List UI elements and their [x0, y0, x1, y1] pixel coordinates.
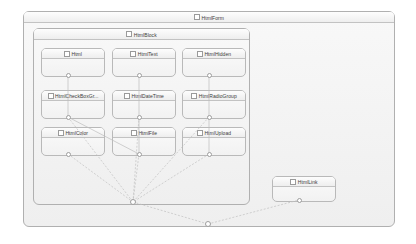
port-htmlupload[interactable]: [207, 152, 212, 157]
node-label: HtmlLink: [298, 179, 318, 185]
class-checkbox-icon: [124, 93, 130, 99]
class-checkbox-icon: [197, 130, 203, 136]
port-htmlradiogroup[interactable]: [207, 115, 212, 120]
class-node-htmlupload[interactable]: HtmlUpload: [182, 127, 246, 156]
node-header: HtmlUpload: [183, 128, 245, 138]
node-attribute-compartment: [183, 138, 245, 155]
node-attribute-compartment: [113, 59, 175, 76]
port-htmlhidden[interactable]: [207, 73, 212, 78]
junction-hub-block[interactable]: [130, 199, 136, 205]
diagram-canvas: HtmlFormHtmlBlockHtmlHtmlTextHtmlHiddenH…: [0, 0, 416, 244]
node-header: HtmlDateTime: [113, 91, 175, 101]
port-htmlfile[interactable]: [137, 152, 142, 157]
node-header: Html: [42, 49, 104, 59]
class-node-htmlradiogroup[interactable]: HtmlRadioGroup: [182, 90, 246, 119]
class-checkbox-icon: [191, 93, 197, 99]
node-header: HtmlBlock: [34, 29, 249, 40]
class-checkbox-icon: [58, 130, 64, 136]
class-checkbox-icon: [131, 130, 137, 136]
node-header: HtmlColor: [42, 128, 104, 138]
class-node-htmllink[interactable]: HtmlLink: [272, 176, 336, 202]
port-htmltext[interactable]: [137, 73, 142, 78]
node-label: HtmlBlock: [134, 32, 157, 38]
node-label: HtmlUpload: [204, 130, 231, 136]
node-attribute-compartment: [42, 138, 104, 155]
port-html[interactable]: [66, 73, 71, 78]
node-label: HtmlFile: [138, 130, 157, 136]
node-label: HtmlRadioGroup: [199, 93, 237, 99]
class-checkbox-icon: [290, 179, 296, 185]
class-checkbox-icon: [48, 93, 54, 99]
class-checkbox-icon: [130, 51, 136, 57]
node-attribute-compartment: [113, 101, 175, 118]
node-header: HtmlHidden: [183, 49, 245, 59]
node-label: HtmlDateTime: [132, 93, 164, 99]
node-header: HtmlLink: [273, 177, 335, 187]
node-attribute-compartment: [183, 59, 245, 76]
node-label: HtmlHidden: [204, 51, 231, 57]
node-attribute-compartment: [113, 138, 175, 155]
node-header: HtmlForm: [24, 12, 394, 23]
node-label: HtmlColor: [65, 130, 88, 136]
class-node-htmlhidden[interactable]: HtmlHidden: [182, 48, 246, 77]
class-node-htmldatetime[interactable]: HtmlDateTime: [112, 90, 176, 119]
class-node-htmlfile[interactable]: HtmlFile: [112, 127, 176, 156]
node-label: Html: [72, 51, 82, 57]
class-node-htmlcolor[interactable]: HtmlColor: [41, 127, 105, 156]
node-header: HtmlFile: [113, 128, 175, 138]
node-attribute-compartment: [42, 59, 104, 76]
node-label: HtmlForm: [202, 15, 224, 21]
node-attribute-compartment: [183, 101, 245, 118]
node-attribute-compartment: [42, 101, 104, 118]
class-checkbox-icon: [126, 31, 132, 37]
node-header: HtmlCheckBoxGr...: [42, 91, 104, 101]
node-header: HtmlRadioGroup: [183, 91, 245, 101]
class-checkbox-icon: [194, 14, 200, 20]
node-label: HtmlCheckBoxGr...: [55, 93, 98, 99]
port-htmllink[interactable]: [297, 198, 302, 203]
node-attribute-compartment: [273, 187, 335, 201]
junction-hub-form[interactable]: [205, 221, 211, 227]
node-header: HtmlText: [113, 49, 175, 59]
class-checkbox-icon: [64, 51, 70, 57]
node-label: HtmlText: [138, 51, 158, 57]
port-htmldatetime[interactable]: [137, 115, 142, 120]
class-node-htmltext[interactable]: HtmlText: [112, 48, 176, 77]
class-node-html[interactable]: Html: [41, 48, 105, 77]
port-htmlcolor[interactable]: [66, 152, 71, 157]
port-htmlcheckboxgr[interactable]: [66, 115, 71, 120]
class-node-htmlcheckboxgr[interactable]: HtmlCheckBoxGr...: [41, 90, 105, 119]
class-checkbox-icon: [197, 51, 203, 57]
